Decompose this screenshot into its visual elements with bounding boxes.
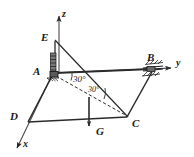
point-label-C: C [132,118,139,129]
angle-label-lower: 30° [88,86,99,94]
angle-lower-arc [104,88,106,99]
mechanics-diagram: z y x A B C D E G 30° 30° [0,0,194,157]
point-label-E: E [41,32,48,43]
support-A-icon [47,53,59,81]
member-CB [127,72,152,117]
member-EC [55,40,128,117]
member-group [28,40,152,122]
angle-label-upper: 30° [73,75,86,84]
member-AC-dashed [56,76,127,116]
y-axis-label: y [176,58,180,68]
force-label-G: G [96,126,104,137]
point-label-D: D [10,111,18,122]
point-label-A: A [33,66,40,77]
z-axis-label: z [62,9,66,19]
member-AD [28,74,53,122]
member-DC [28,117,127,122]
angle-upper-arc [71,73,72,81]
member-AB [55,69,152,73]
x-axis-label: x [23,139,28,149]
point-label-B: B [147,52,154,63]
